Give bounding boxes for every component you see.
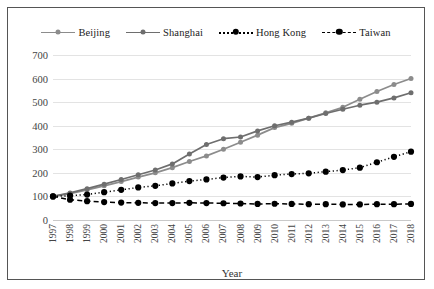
legend-swatch-beijing xyxy=(41,27,75,38)
data-point xyxy=(101,189,107,195)
data-point xyxy=(84,191,90,197)
data-point xyxy=(238,135,243,140)
data-point xyxy=(135,184,141,190)
data-point xyxy=(340,167,346,173)
data-point xyxy=(85,186,90,191)
data-point xyxy=(220,200,226,206)
data-point xyxy=(374,100,379,105)
x-tick-label: 2002 xyxy=(133,224,143,243)
data-point xyxy=(118,187,124,193)
x-axis-title: Year xyxy=(53,267,411,279)
data-point xyxy=(289,201,295,207)
series-shanghai xyxy=(51,90,414,199)
data-point xyxy=(323,201,329,207)
data-point xyxy=(340,107,345,112)
data-point xyxy=(67,197,73,203)
data-point xyxy=(187,152,192,157)
data-point xyxy=(203,200,209,206)
data-point xyxy=(220,174,226,180)
y-tick-label: 200 xyxy=(32,167,48,178)
plot-area: 0100200300400500600700 19971998199920002… xyxy=(53,55,411,220)
data-point xyxy=(221,147,226,152)
data-point xyxy=(153,168,158,173)
data-point xyxy=(152,200,158,206)
data-point xyxy=(119,177,124,182)
data-point xyxy=(204,142,209,147)
data-point xyxy=(254,174,260,180)
data-point xyxy=(255,128,260,133)
data-point xyxy=(254,201,260,207)
legend-item-shanghai: Shanghai xyxy=(126,27,203,38)
data-point xyxy=(408,149,414,155)
x-tick-label: 2013 xyxy=(321,224,331,243)
x-tick-label: 2001 xyxy=(116,224,126,243)
data-point xyxy=(152,183,158,189)
data-point xyxy=(136,172,141,177)
x-tick-label: 2016 xyxy=(372,224,382,243)
y-tick-label: 500 xyxy=(32,97,48,108)
legend-swatch-hong-kong xyxy=(219,27,253,38)
x-tick-label: 2007 xyxy=(218,224,228,243)
data-point xyxy=(186,178,192,184)
data-point xyxy=(237,200,243,206)
x-tick-label: 2003 xyxy=(150,224,160,243)
y-tick-label: 700 xyxy=(32,50,48,61)
data-point xyxy=(374,201,380,207)
series-taiwan xyxy=(50,193,414,207)
data-point xyxy=(203,176,209,182)
series-hong-kong xyxy=(50,149,414,200)
data-point xyxy=(374,89,379,94)
data-point xyxy=(391,201,397,207)
x-tick-label: 2008 xyxy=(236,224,246,243)
legend-label-taiwan: Taiwan xyxy=(359,27,390,38)
legend-swatch-shanghai xyxy=(126,27,160,38)
data-point xyxy=(357,97,362,102)
data-point xyxy=(357,165,363,171)
legend-label-shanghai: Shanghai xyxy=(163,27,203,38)
series-lines xyxy=(53,55,411,220)
data-point xyxy=(391,154,397,160)
data-point xyxy=(101,199,107,205)
legend-label-beijing: Beijing xyxy=(78,27,110,38)
y-tick-label: 300 xyxy=(32,144,48,155)
data-point xyxy=(118,199,124,205)
legend-label-hong-kong: Hong Kong xyxy=(256,27,306,38)
x-tick-label: 2018 xyxy=(406,224,416,243)
x-tick-label: 2012 xyxy=(304,224,314,243)
x-tick-label: 2000 xyxy=(99,224,109,243)
data-point xyxy=(204,153,209,158)
legend-item-hong-kong: Hong Kong xyxy=(219,27,306,38)
data-point xyxy=(238,140,243,145)
data-point xyxy=(102,182,107,187)
data-point xyxy=(169,180,175,186)
legend-item-taiwan: Taiwan xyxy=(322,27,390,38)
data-point xyxy=(323,169,329,175)
gridline xyxy=(53,220,411,221)
x-tick-label: 2005 xyxy=(184,224,194,243)
data-point xyxy=(306,201,312,207)
legend-item-beijing: Beijing xyxy=(41,27,110,38)
y-tick-label: 100 xyxy=(32,191,48,202)
data-point xyxy=(391,82,396,87)
data-point xyxy=(50,193,56,199)
chart-legend: Beijing Shanghai Hong Kong Taiwan xyxy=(8,22,424,42)
data-point xyxy=(186,200,192,206)
data-point xyxy=(169,200,175,206)
y-tick-label: 400 xyxy=(32,120,48,131)
data-point xyxy=(272,172,278,178)
x-tick-label: 2015 xyxy=(355,224,365,243)
x-tick-label: 2011 xyxy=(287,224,297,243)
x-tick-label: 2014 xyxy=(338,224,348,243)
data-point xyxy=(135,200,141,206)
x-tick-label: 1999 xyxy=(82,224,92,243)
x-tick-label: 2009 xyxy=(253,224,263,243)
data-point xyxy=(221,136,226,141)
x-tick-label: 1997 xyxy=(48,224,58,243)
data-point xyxy=(391,95,396,100)
data-point xyxy=(170,161,175,166)
y-tick-label: 600 xyxy=(32,73,48,84)
x-tick-label: 2004 xyxy=(167,224,177,243)
data-point xyxy=(272,123,277,128)
data-point xyxy=(374,159,380,165)
x-tick-label: 2017 xyxy=(389,224,399,243)
